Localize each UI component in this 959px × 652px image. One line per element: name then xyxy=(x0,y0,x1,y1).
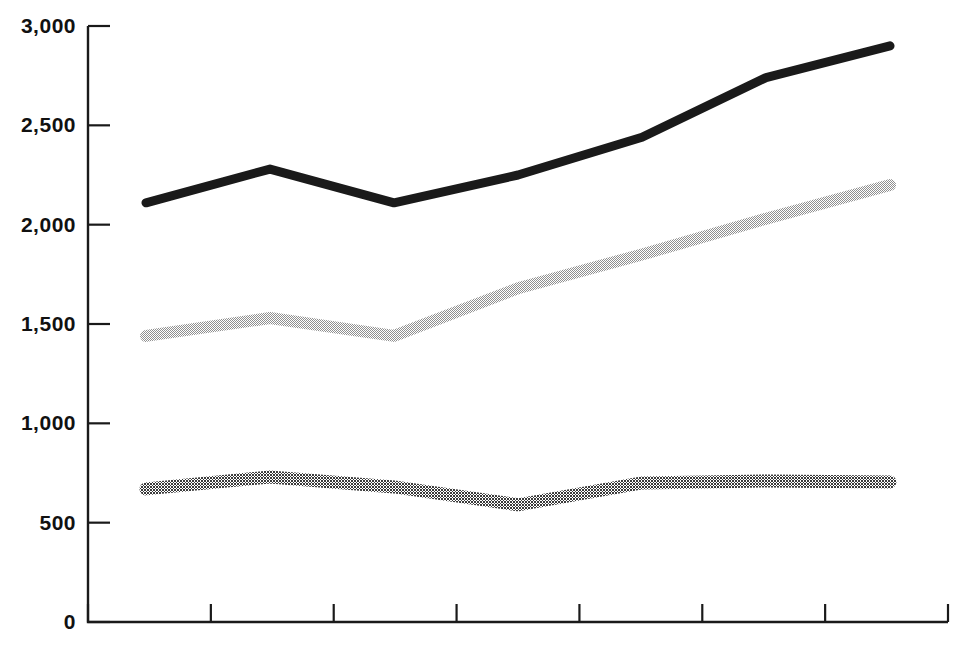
y-tick-label: 0 xyxy=(64,610,76,633)
series-line-bottom xyxy=(146,477,890,505)
y-axis-tick-labels: 05001,0001,5002,0002,5003,000 xyxy=(21,14,76,633)
y-tick-label: 2,000 xyxy=(21,213,76,236)
x-axis-tick-marks xyxy=(88,604,948,622)
y-axis-tick-marks xyxy=(88,26,110,622)
y-tick-label: 2,500 xyxy=(21,113,76,136)
chart-container: 05001,0001,5002,0002,5003,000 xyxy=(0,0,959,652)
series-line-middle xyxy=(146,185,890,336)
y-tick-label: 1,000 xyxy=(21,411,76,434)
series-line-top xyxy=(146,46,890,203)
y-tick-label: 1,500 xyxy=(21,312,76,335)
y-tick-label: 500 xyxy=(39,511,76,534)
chart-series-group xyxy=(146,46,890,505)
line-chart: 05001,0001,5002,0002,5003,000 xyxy=(0,0,959,652)
y-tick-label: 3,000 xyxy=(21,14,76,37)
chart-axes: 05001,0001,5002,0002,5003,000 xyxy=(21,14,948,633)
